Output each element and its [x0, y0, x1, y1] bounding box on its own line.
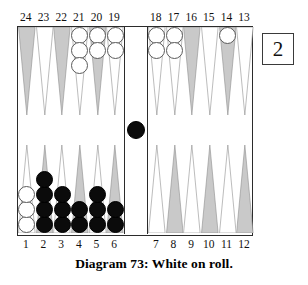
- checker-white-point-21[interactable]: [71, 57, 88, 74]
- point-number-23: 23: [35, 10, 53, 25]
- point-number-19: 19: [105, 10, 123, 25]
- board-quadrant-bottom-right: [148, 130, 254, 233]
- point-number-21: 21: [70, 10, 88, 25]
- point-triangle-10: [201, 145, 219, 233]
- checker-black-on-bar[interactable]: [127, 121, 145, 139]
- point-number-2: 2: [35, 237, 53, 252]
- doubling-cube[interactable]: 2: [262, 33, 294, 65]
- point-triangle-15: [201, 27, 219, 115]
- figure-caption: Diagram 73: White on roll.: [0, 256, 308, 272]
- checker-stack-point-5: [89, 145, 107, 233]
- point-triangle-24: [18, 27, 36, 115]
- point-number-24: 24: [17, 10, 35, 25]
- point-7[interactable]: [148, 145, 166, 233]
- point-number-11: 11: [218, 237, 236, 252]
- checker-black-point-2[interactable]: [36, 216, 53, 233]
- checker-black-point-4[interactable]: [71, 216, 88, 233]
- point-number-8: 8: [165, 237, 183, 252]
- point-23[interactable]: [36, 27, 54, 115]
- point-triangle-12: [236, 145, 254, 233]
- point-triangle-23: [36, 27, 54, 115]
- point-number-16: 16: [182, 10, 200, 25]
- board-quadrant-top-left: [18, 27, 124, 130]
- doubling-cube-value: 2: [273, 37, 284, 62]
- point-11[interactable]: [219, 145, 237, 233]
- point-triangle-7: [148, 145, 166, 233]
- checker-white-point-17[interactable]: [166, 42, 183, 59]
- checker-stack-point-17: [166, 27, 184, 115]
- point-number-12: 12: [235, 237, 253, 252]
- point-number-17: 17: [165, 10, 183, 25]
- checker-black-point-5[interactable]: [89, 216, 106, 233]
- board-quadrant-bottom-left: [18, 130, 124, 233]
- point-triangle-22: [53, 27, 71, 115]
- point-number-5: 5: [88, 237, 106, 252]
- point-number-22: 22: [52, 10, 70, 25]
- point-24[interactable]: [18, 27, 36, 115]
- checker-black-point-6[interactable]: [107, 216, 124, 233]
- checker-black-point-6[interactable]: [107, 201, 124, 218]
- point-numbers-top: 24 23 22 21 20 19 18 17 16 15 14 13: [17, 10, 253, 25]
- checker-white-point-18[interactable]: [148, 42, 165, 59]
- checker-stack-point-20: [89, 27, 107, 115]
- point-number-1: 1: [17, 237, 35, 252]
- checker-stack-point-21: [71, 27, 89, 115]
- point-numbers-top-right: 18 17 16 15 14 13: [147, 10, 253, 25]
- point-10[interactable]: [201, 145, 219, 233]
- checker-white-point-14[interactable]: [219, 27, 236, 44]
- point-number-20: 20: [88, 10, 106, 25]
- point-triangle-11: [219, 145, 237, 233]
- board-quadrant-top-right: [148, 27, 254, 130]
- point-triangle-13: [236, 27, 254, 115]
- point-number-14: 14: [218, 10, 236, 25]
- point-number-4: 4: [70, 237, 88, 252]
- checker-stack-point-4: [71, 145, 89, 233]
- point-number-18: 18: [147, 10, 165, 25]
- checker-black-point-2[interactable]: [36, 186, 53, 203]
- point-triangle-16: [183, 27, 201, 115]
- checker-black-point-5[interactable]: [89, 201, 106, 218]
- point-16[interactable]: [183, 27, 201, 115]
- checker-white-point-1[interactable]: [18, 186, 35, 203]
- checker-black-point-4[interactable]: [71, 201, 88, 218]
- checker-black-point-5[interactable]: [89, 186, 106, 203]
- point-12[interactable]: [236, 145, 254, 233]
- checker-black-point-3[interactable]: [54, 201, 71, 218]
- checker-black-point-2[interactable]: [36, 171, 53, 188]
- checker-white-point-19[interactable]: [107, 42, 124, 59]
- point-triangle-9: [183, 145, 201, 233]
- checker-stack-point-6: [106, 145, 124, 233]
- checker-black-point-3[interactable]: [54, 216, 71, 233]
- backgammon-diagram: 24 23 22 21 20 19 18 17 16 15 14 13 1 2 …: [0, 0, 308, 285]
- point-number-15: 15: [200, 10, 218, 25]
- checker-white-point-1[interactable]: [18, 201, 35, 218]
- checker-black-point-2[interactable]: [36, 201, 53, 218]
- checker-white-point-20[interactable]: [89, 42, 106, 59]
- checker-stack-point-14: [219, 27, 237, 115]
- point-number-13: 13: [235, 10, 253, 25]
- point-triangle-8: [166, 145, 184, 233]
- point-numbers-bottom-left: 1 2 3 4 5 6: [17, 237, 123, 252]
- point-13[interactable]: [236, 27, 254, 115]
- checker-stack-point-2: [36, 145, 54, 233]
- point-number-3: 3: [52, 237, 70, 252]
- point-9[interactable]: [183, 145, 201, 233]
- point-8[interactable]: [166, 145, 184, 233]
- point-numbers-top-left: 24 23 22 21 20 19: [17, 10, 123, 25]
- point-15[interactable]: [201, 27, 219, 115]
- checker-stack-point-18: [148, 27, 166, 115]
- point-number-7: 7: [147, 237, 165, 252]
- point-number-9: 9: [182, 237, 200, 252]
- backgammon-board: [17, 26, 253, 236]
- checker-black-point-3[interactable]: [54, 186, 71, 203]
- checker-white-point-1[interactable]: [18, 216, 35, 233]
- point-22[interactable]: [53, 27, 71, 115]
- checker-stack-point-3: [53, 145, 71, 233]
- checker-stack-point-19: [106, 27, 124, 115]
- checker-stack-point-1: [18, 145, 36, 233]
- point-numbers-bottom: 1 2 3 4 5 6 7 8 9 10 11 12: [17, 237, 253, 252]
- point-numbers-bottom-right: 7 8 9 10 11 12: [147, 237, 253, 252]
- point-number-6: 6: [105, 237, 123, 252]
- point-number-10: 10: [200, 237, 218, 252]
